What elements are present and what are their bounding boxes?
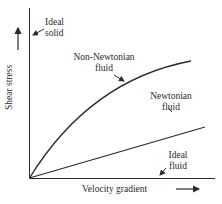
non-newtonian-label-line1: Non-Newtonian — [64, 52, 144, 63]
ideal-solid-label-line2: solid — [45, 28, 64, 39]
newtonian-label-line1: Newtonian — [146, 91, 196, 102]
newtonian-label-line2: fluid — [146, 102, 196, 113]
ideal-fluid-label-line1: Ideal — [163, 150, 193, 161]
y-axis-label: Shear stress — [4, 50, 14, 110]
ideal-fluid-label-line2: fluid — [163, 161, 193, 172]
ideal-fluid-label: Ideal fluid — [163, 150, 193, 172]
x-axis-label: Velocity gradient — [82, 184, 147, 195]
non-newtonian-pointer-icon — [114, 75, 124, 81]
ideal-solid-label-line1: Ideal — [45, 17, 64, 28]
non-newtonian-label: Non-Newtonian fluid — [64, 52, 144, 74]
non-newtonian-label-line2: fluid — [64, 63, 144, 74]
ideal-solid-pointer-icon — [33, 29, 44, 35]
ideal-solid-label: Ideal solid — [45, 17, 64, 39]
newtonian-label: Newtonian fluid — [146, 91, 196, 113]
